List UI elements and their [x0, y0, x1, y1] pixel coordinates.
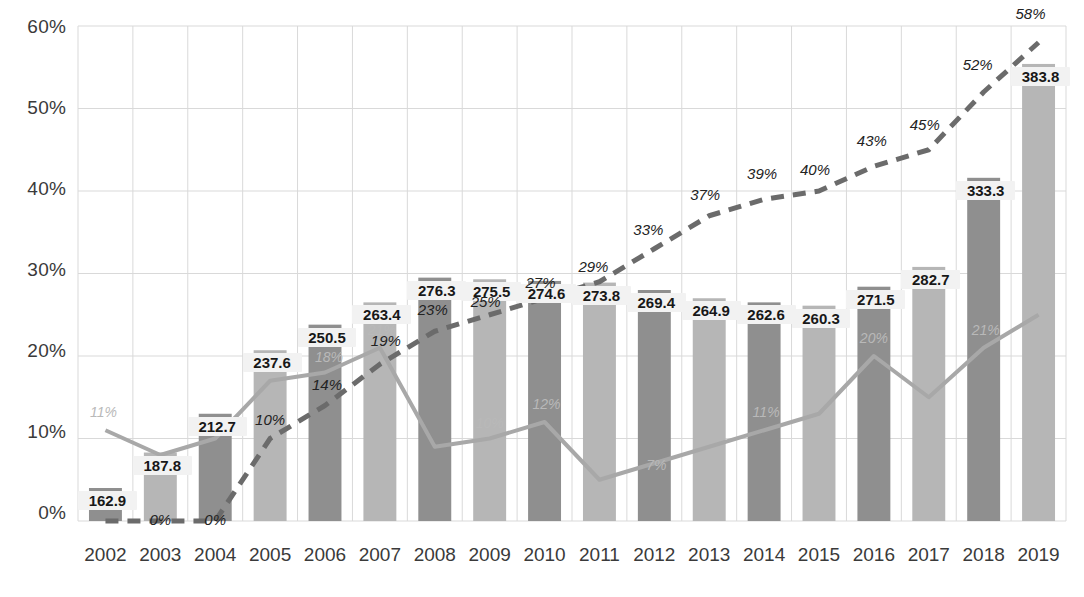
x-axis-tick-2005: 2005 [243, 544, 298, 566]
x-axis-tick-2008: 2008 [407, 544, 462, 566]
solid-line-label-2009: 10% [462, 415, 517, 431]
bar-2012 [638, 290, 671, 521]
bar-value-label-2002: 162.9 [78, 491, 137, 510]
bar-value-label-2005: 237.6 [243, 353, 302, 372]
bar-2017 [912, 267, 945, 521]
dashed-line-label-2009: 25% [458, 293, 513, 310]
x-axis-tick-2013: 2013 [682, 544, 737, 566]
bar-value-label-2011: 273.8 [572, 286, 631, 305]
x-axis-tick-2011: 2011 [572, 544, 627, 566]
solid-line-label-2010: 12% [519, 396, 574, 412]
bar-value-label-2016: 271.5 [846, 290, 905, 309]
bar-2013 [693, 298, 726, 521]
dashed-line-label-2019: 58% [1003, 5, 1058, 22]
dashed-line-label-2006: 14% [300, 376, 355, 393]
x-axis-tick-2016: 2016 [846, 544, 901, 566]
dashed-line-label-2015: 40% [788, 161, 843, 178]
bar-value-label-2014: 262.6 [737, 305, 796, 324]
x-axis-tick-2019: 2019 [1011, 544, 1066, 566]
dashed-line-label-2004: 0% [188, 511, 243, 528]
x-axis-tick-2012: 2012 [627, 544, 682, 566]
bar-2016 [857, 287, 890, 521]
dashed-line-label-2003: 0% [133, 511, 188, 528]
bar-value-label-2003: 187.8 [133, 456, 192, 475]
x-axis-tick-2003: 2003 [133, 544, 188, 566]
dashed-line-label-2012: 33% [621, 221, 676, 238]
bar-value-label-2015: 260.3 [792, 309, 851, 328]
bar-value-label-2019: 383.8 [1011, 67, 1070, 86]
x-axis-tick-2007: 2007 [352, 544, 407, 566]
solid-line-label-2018: 21% [958, 322, 1013, 338]
x-axis-tick-2015: 2015 [792, 544, 847, 566]
dashed-line-label-2008: 23% [405, 301, 460, 318]
x-axis-tick-2017: 2017 [901, 544, 956, 566]
bar-value-label-2018: 333.3 [956, 181, 1015, 200]
solid-line-label-2014: 11% [739, 404, 794, 420]
bar-value-label-2004: 212.7 [188, 417, 247, 436]
dashed-line-label-2010: 27% [513, 274, 568, 291]
chart-canvas: 60% 50% 40% 30% 20% 10% 0% 2002200320042… [0, 0, 1084, 597]
solid-line-label-2006: 18% [302, 349, 357, 365]
bar-2019 [1022, 64, 1055, 521]
x-axis-tick-2002: 2002 [78, 544, 133, 566]
dashed-line-label-2014: 39% [735, 165, 790, 182]
bar-value-label-2013: 264.9 [682, 301, 741, 320]
x-axis-tick-2010: 2010 [517, 544, 572, 566]
dashed-line-label-2011: 29% [566, 258, 621, 275]
dashed-line-label-2017: 45% [897, 116, 952, 133]
dashed-line-label-2013: 37% [678, 186, 733, 203]
solid-line-label-2007: 21% [354, 322, 409, 338]
dashed-line-label-2018: 52% [950, 56, 1005, 73]
dashed-line-label-2005: 10% [243, 411, 298, 428]
x-axis-tick-2006: 2006 [298, 544, 353, 566]
x-axis-tick-2009: 2009 [462, 544, 517, 566]
bar-value-label-2006: 250.5 [298, 328, 357, 347]
bar-value-label-2017: 282.7 [901, 270, 960, 289]
x-axis-tick-2014: 2014 [737, 544, 792, 566]
bar-2011 [583, 283, 616, 521]
solid-line-label-2012: 7% [629, 457, 684, 473]
solid-line-label-2016: 20% [846, 330, 901, 346]
x-axis-tick-2018: 2018 [956, 544, 1011, 566]
x-axis-tick-2004: 2004 [188, 544, 243, 566]
dashed-line-label-2016: 43% [844, 132, 899, 149]
bar-value-label-2012: 269.4 [627, 293, 686, 312]
solid-line-label-2002: 11% [76, 404, 131, 420]
